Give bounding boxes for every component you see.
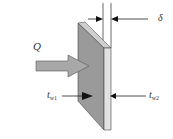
diagram-graphics: [0, 0, 173, 139]
tw2-subscript: w2: [152, 95, 159, 101]
heat-flow-label: Q: [33, 41, 41, 52]
thickness-arrow-left: [88, 16, 103, 22]
plane-wall-diagram: Q δ tw1 tw2: [0, 0, 173, 139]
thickness-arrow-right: [111, 16, 148, 22]
wall-side-face: [104, 48, 111, 130]
tw2-pointer-arrow: [110, 93, 146, 99]
outer-wall-temperature-label: tw2: [149, 90, 159, 101]
tw1-subscript: w1: [50, 95, 57, 101]
thickness-label: δ: [158, 13, 163, 23]
inner-wall-temperature-label: tw1: [47, 90, 57, 101]
